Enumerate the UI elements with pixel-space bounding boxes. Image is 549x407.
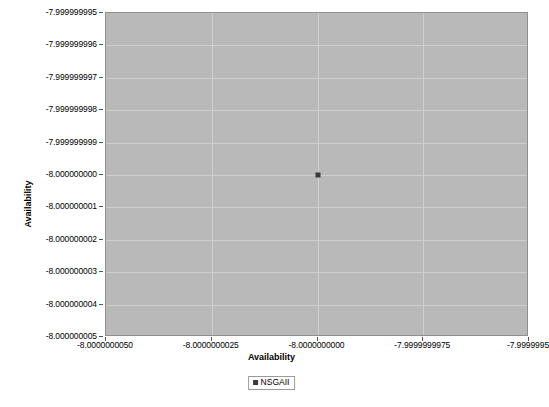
- y-axis-tick-mark: [99, 239, 103, 240]
- x-axis-tick-mark: [422, 337, 423, 341]
- legend-label: NSGAII: [261, 378, 290, 387]
- y-axis-tick-mark: [99, 142, 103, 143]
- gridline-horizontal: [106, 207, 527, 208]
- gridline-horizontal: [106, 305, 527, 306]
- y-axis-tick-mark: [99, 271, 103, 272]
- y-axis-tick-mark: [99, 77, 103, 78]
- gridline-horizontal: [106, 272, 527, 273]
- legend-swatch-icon: [253, 380, 258, 385]
- x-axis-title: Availability: [0, 352, 543, 362]
- gridline-horizontal: [106, 240, 527, 241]
- y-axis-tick-mark: [99, 44, 103, 45]
- x-axis-tick-mark: [528, 337, 529, 341]
- x-axis-tick-mark: [317, 337, 318, 341]
- y-axis-tick-label: -7.999999999: [46, 137, 97, 147]
- y-axis-tick-label: -8.000000004: [46, 299, 97, 309]
- plot-area: [105, 12, 528, 336]
- data-point-marker: [315, 173, 320, 178]
- gridline-vertical: [212, 13, 213, 335]
- x-axis-tick-label: -8.0000000000: [289, 340, 345, 350]
- gridline-vertical: [423, 13, 424, 335]
- x-axis-tick-label: -7.9999999975: [394, 340, 450, 350]
- y-axis-tick-label: -7.999999998: [46, 104, 97, 114]
- gridline-horizontal: [106, 78, 527, 79]
- x-axis-tick-label: -8.0000000025: [183, 340, 239, 350]
- y-axis-tick-label: -8.000000003: [46, 266, 97, 276]
- y-axis-tick-label: -8.000000000: [46, 169, 97, 179]
- y-axis-tick-label: -8.000000001: [46, 201, 97, 211]
- chart-legend: NSGAII: [248, 376, 296, 390]
- y-axis-tick-label: -7.999999997: [46, 72, 97, 82]
- y-axis-tick-mark: [99, 304, 103, 305]
- gridline-horizontal: [106, 45, 527, 46]
- x-axis-tick-mark: [211, 337, 212, 341]
- x-axis-tick-labels: -8.0000000050-8.0000000025-8.0000000000-…: [0, 337, 543, 353]
- y-axis-tick-label: -7.999999996: [46, 39, 97, 49]
- y-axis-title: Availability: [23, 180, 33, 227]
- y-axis-tick-mark: [99, 174, 103, 175]
- y-axis-tick-label: -8.000000002: [46, 234, 97, 244]
- y-axis-tick-mark: [99, 206, 103, 207]
- gridline-horizontal: [106, 110, 527, 111]
- gridline-horizontal: [106, 143, 527, 144]
- x-axis-tick-mark: [105, 337, 106, 341]
- y-axis-tick-mark: [99, 12, 103, 13]
- x-axis-tick-label: -7.9999995: [507, 340, 549, 350]
- y-axis-tick-mark: [99, 109, 103, 110]
- y-axis-tick-label: -7.999999995: [46, 7, 97, 17]
- x-axis-tick-label: -8.0000000050: [77, 340, 133, 350]
